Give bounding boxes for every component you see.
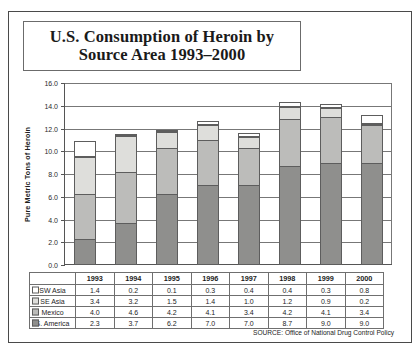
table-cell: 0.8 (345, 285, 384, 296)
table-cell: 1.4 (76, 285, 115, 296)
bar-slot (65, 83, 106, 264)
stacked-bar[interactable] (279, 102, 301, 264)
bar-slot (310, 83, 351, 264)
data-table: 19931994199519961997199819992000 SW Asia… (29, 272, 384, 329)
bar-segment (279, 107, 301, 121)
bar-segment (156, 194, 178, 265)
table-cell: 7.0 (191, 318, 230, 329)
bar-group-container (65, 83, 392, 264)
table-column-header: 1995 (153, 273, 192, 285)
y-axis-tick-labels: 0.02.04.06.08.010.012.014.016.0 (36, 83, 62, 265)
y-axis-tick-label: 2.0 (48, 239, 58, 246)
bar-slot (229, 83, 270, 264)
chart-plot-region: Pure Metric Tons of Heroin 0.02.04.06.08… (20, 83, 400, 273)
stacked-bar[interactable] (238, 133, 260, 264)
table-cell: 0.1 (153, 285, 192, 296)
table-cell: 4.2 (268, 307, 307, 318)
table-cell: 9.0 (307, 318, 346, 329)
table-cell: 4.2 (153, 307, 192, 318)
bar-segment (74, 239, 96, 265)
legend-swatch (32, 298, 39, 305)
table-cell: 0.2 (345, 296, 384, 307)
y-axis-tick-label: 16.0 (44, 80, 58, 87)
table-column-header: 1993 (76, 273, 115, 285)
bar-segment (156, 132, 178, 149)
table-cell: 9.0 (345, 318, 384, 329)
table-header-row: 19931994199519961997199819992000 (30, 273, 384, 285)
bar-segment (197, 140, 219, 187)
bar-segment (238, 185, 260, 265)
bar-slot (188, 83, 229, 264)
table-cell: 4.6 (114, 307, 153, 318)
stacked-bar[interactable] (74, 141, 96, 264)
table-column-header: 1996 (191, 273, 230, 285)
table-row: SW Asia1.40.20.10.30.40.40.30.8 (30, 285, 384, 296)
bar-segment (74, 157, 96, 196)
table-column-header: 2000 (345, 273, 384, 285)
table-cell: 0.3 (307, 285, 346, 296)
legend-swatch (32, 309, 39, 316)
bar-segment (74, 194, 96, 240)
y-axis-tick-mark (61, 265, 65, 266)
plot-area (64, 83, 392, 265)
stacked-bar[interactable] (115, 134, 137, 264)
stacked-bar[interactable] (156, 130, 178, 264)
table-cell: 4.0 (76, 307, 115, 318)
y-axis-title: Pure Metric Tons of Heroin (20, 83, 36, 265)
table-row: SE Asia3.43.21.51.41.01.20.90.2 (30, 296, 384, 307)
stacked-bar[interactable] (361, 115, 383, 264)
table-cell: 4.1 (191, 307, 230, 318)
bar-segment (156, 148, 178, 196)
data-table-wrapper: 19931994199519961997199819992000 SW Asia… (29, 272, 384, 329)
bar-segment (361, 125, 383, 164)
bar-slot (269, 83, 310, 264)
chart-title-box: U.S. Consumption of Heroin bySource Area… (23, 21, 301, 71)
y-axis-tick-label: 12.0 (44, 125, 58, 132)
table-column-header: 1999 (307, 273, 346, 285)
table-cell: 2.3 (76, 318, 115, 329)
table-cell: 3.4 (76, 296, 115, 307)
bar-segment (115, 223, 137, 265)
bar-slot (106, 83, 147, 264)
bar-slot (351, 83, 392, 264)
table-corner-cell (30, 273, 76, 285)
y-axis-tick-label: 6.0 (48, 193, 58, 200)
table-cell: 4.1 (307, 307, 346, 318)
y-axis-tick-label: 10.0 (44, 148, 58, 155)
stacked-bar[interactable] (320, 104, 342, 264)
source-note: SOURCE: Office of National Drug Control … (253, 329, 394, 336)
table-cell: 3.7 (114, 318, 153, 329)
legend-row-label: Mexico (30, 307, 76, 318)
bar-segment (115, 136, 137, 172)
table-cell: 0.4 (230, 285, 269, 296)
bar-segment (279, 166, 301, 265)
bar-segment (115, 172, 137, 224)
table-cell: 6.2 (153, 318, 192, 329)
legend-swatch (32, 320, 39, 327)
table-cell: 3.2 (114, 296, 153, 307)
table-cell: 0.4 (268, 285, 307, 296)
legend-row-label: SE Asia (30, 296, 76, 307)
y-axis-title-text: Pure Metric Tons of Heroin (24, 126, 33, 221)
data-table-head: 19931994199519961997199819992000 (30, 273, 384, 285)
bar-segment (320, 163, 342, 265)
legend-row-label: SW Asia (30, 285, 76, 296)
bar-segment (361, 115, 383, 124)
y-axis-tick-label: 0.0 (48, 262, 58, 269)
table-cell: 1.4 (191, 296, 230, 307)
table-cell: 7.0 (230, 318, 269, 329)
stacked-bar[interactable] (197, 121, 219, 264)
bar-segment (238, 148, 260, 187)
table-cell: 8.7 (268, 318, 307, 329)
y-axis-tick-label: 14.0 (44, 102, 58, 109)
bar-segment (320, 117, 342, 164)
table-cell: 3.4 (345, 307, 384, 318)
table-cell: 1.5 (153, 296, 192, 307)
data-table-body: SW Asia1.40.20.10.30.40.40.30.8SE Asia3.… (30, 285, 384, 329)
bar-segment (197, 185, 219, 265)
table-cell: 3.4 (230, 307, 269, 318)
bar-segment (279, 119, 301, 167)
table-cell: 1.2 (268, 296, 307, 307)
y-axis-tick-label: 4.0 (48, 216, 58, 223)
table-column-header: 1994 (114, 273, 153, 285)
